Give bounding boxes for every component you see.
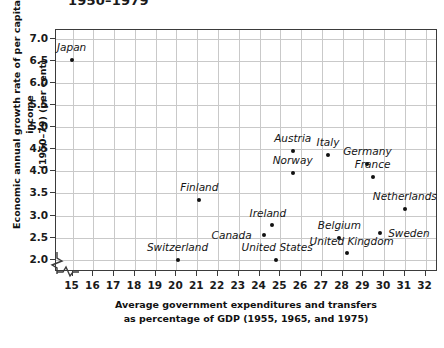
data-points: JapanSwitzerlandFinlandCanadaIrelandUnit… bbox=[56, 30, 436, 270]
x-tick-label: 19 bbox=[147, 279, 162, 291]
y-tick bbox=[50, 237, 55, 238]
chart-root: 1950–1979 Economic annual growth rate of… bbox=[0, 0, 444, 348]
y-tick bbox=[50, 126, 55, 127]
x-tick-label: 28 bbox=[334, 279, 349, 291]
y-tick bbox=[50, 82, 55, 83]
x-tick bbox=[404, 271, 405, 276]
x-tick bbox=[175, 271, 176, 276]
data-point[interactable] bbox=[197, 198, 201, 202]
data-point-label: Finland bbox=[180, 181, 218, 193]
x-tick-label: 26 bbox=[293, 279, 308, 291]
x-tick-label: 15 bbox=[64, 279, 79, 291]
x-tick bbox=[134, 271, 135, 276]
y-tick-label: 6.0 bbox=[24, 76, 48, 88]
y-tick bbox=[50, 104, 55, 105]
y-tick-label: 5.0 bbox=[24, 120, 48, 132]
y-tick-label: 6.5 bbox=[24, 54, 48, 66]
data-point-label: Japan bbox=[57, 41, 86, 53]
data-point[interactable] bbox=[326, 153, 330, 157]
data-point[interactable] bbox=[176, 258, 180, 262]
data-point-label: Austria bbox=[274, 132, 311, 144]
data-point-label: Switzerland bbox=[147, 241, 208, 253]
data-point-label: Netherlands bbox=[373, 190, 437, 202]
x-tick bbox=[362, 271, 363, 276]
y-tick-label: 5.5 bbox=[24, 98, 48, 110]
x-tick-label: 16 bbox=[85, 279, 100, 291]
x-tick bbox=[155, 271, 156, 276]
y-tick-label: 3.5 bbox=[24, 186, 48, 198]
x-tick bbox=[196, 271, 197, 276]
y-tick-label: 2.5 bbox=[24, 231, 48, 243]
x-tick-label: 31 bbox=[396, 279, 411, 291]
y-tick bbox=[50, 192, 55, 193]
data-point[interactable] bbox=[270, 223, 274, 227]
y-tick bbox=[50, 148, 55, 149]
x-tick-label: 27 bbox=[313, 279, 328, 291]
x-tick bbox=[113, 271, 114, 276]
x-tick-label: 24 bbox=[251, 279, 266, 291]
x-tick bbox=[217, 271, 218, 276]
x-tick bbox=[279, 271, 280, 276]
data-point[interactable] bbox=[291, 149, 295, 153]
data-point-label: Canada bbox=[212, 229, 252, 241]
data-point-label: France bbox=[355, 158, 391, 170]
x-tick bbox=[425, 271, 426, 276]
x-axis-title-line2: as percentage of GDP (1955, 1965, and 19… bbox=[124, 313, 369, 324]
x-tick-label: 17 bbox=[106, 279, 121, 291]
x-tick-label: 21 bbox=[189, 279, 204, 291]
data-point-label: Ireland bbox=[250, 207, 287, 219]
y-tick-label: 7.0 bbox=[24, 32, 48, 44]
x-tick bbox=[383, 271, 384, 276]
data-point[interactable] bbox=[403, 207, 407, 211]
data-point[interactable] bbox=[291, 171, 295, 175]
data-point-label: Germany bbox=[343, 145, 391, 157]
x-axis-title-line1: Average government expenditures and tran… bbox=[115, 299, 377, 310]
x-tick-label: 29 bbox=[355, 279, 370, 291]
y-tick-label: 3.0 bbox=[24, 209, 48, 221]
x-tick-label: 32 bbox=[417, 279, 432, 291]
data-point[interactable] bbox=[378, 231, 382, 235]
x-tick-label: 25 bbox=[272, 279, 287, 291]
data-point-label: Sweden bbox=[388, 227, 430, 239]
data-point-label: Italy bbox=[317, 136, 340, 148]
plot-area: JapanSwitzerlandFinlandCanadaIrelandUnit… bbox=[55, 29, 437, 271]
data-point[interactable] bbox=[274, 258, 278, 262]
x-tick bbox=[259, 271, 260, 276]
y-tick-label: 2.0 bbox=[24, 253, 48, 265]
x-tick bbox=[342, 271, 343, 276]
x-tick bbox=[321, 271, 322, 276]
data-point[interactable] bbox=[345, 251, 349, 255]
y-tick-label: 4.0 bbox=[24, 164, 48, 176]
data-point-label: Belgium bbox=[318, 219, 361, 231]
x-tick-label: 23 bbox=[230, 279, 245, 291]
x-tick-label: 18 bbox=[127, 279, 142, 291]
x-tick-label: 30 bbox=[376, 279, 391, 291]
data-point-label: Norway bbox=[273, 154, 313, 166]
y-tick bbox=[50, 38, 55, 39]
y-tick bbox=[50, 170, 55, 171]
x-axis-title: Average government expenditures and tran… bbox=[55, 298, 437, 326]
x-tick bbox=[92, 271, 93, 276]
data-point-label: United States bbox=[242, 241, 313, 253]
y-tick-label: 4.5 bbox=[24, 142, 48, 154]
x-tick-label: 20 bbox=[168, 279, 183, 291]
data-point[interactable] bbox=[262, 233, 266, 237]
data-point[interactable] bbox=[70, 58, 74, 62]
x-tick bbox=[300, 271, 301, 276]
data-point-label: United Kingdom bbox=[310, 235, 394, 247]
chart-title: 1950–1979 bbox=[68, 0, 149, 8]
data-point[interactable] bbox=[371, 175, 375, 179]
y-tick bbox=[50, 215, 55, 216]
x-axis-break-icon bbox=[57, 264, 79, 278]
y-tick bbox=[50, 60, 55, 61]
x-tick bbox=[238, 271, 239, 276]
x-tick-label: 22 bbox=[210, 279, 225, 291]
